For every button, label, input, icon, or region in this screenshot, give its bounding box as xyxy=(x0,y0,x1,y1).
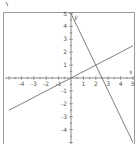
x-tick-label: 1 xyxy=(81,80,85,87)
x-tick-label: 2 xyxy=(94,80,98,87)
y-tick-label: -3 xyxy=(61,113,67,120)
x-tick-label: 5 xyxy=(131,80,135,87)
cropped-mark xyxy=(6,2,8,6)
y-tick-label: -4 xyxy=(61,126,67,133)
x-tick-label: -2 xyxy=(43,80,49,87)
y-tick-label: 5 xyxy=(63,10,67,17)
y-tick-label: -2 xyxy=(61,100,67,107)
y-tick-label: -1 xyxy=(61,87,67,94)
x-tick-label: 4 xyxy=(119,80,123,87)
y-tick-label: 4 xyxy=(63,22,67,29)
x-tick-label: -3 xyxy=(31,80,37,87)
coordinate-graph: -4-3-2-112345 54321-1-2-3-4 x y xyxy=(0,0,138,144)
x-axis-label: x xyxy=(129,68,133,76)
y-tick-label: 2 xyxy=(63,48,67,55)
y-tick-label: 3 xyxy=(63,35,67,42)
y-tick-label: 1 xyxy=(63,61,67,68)
x-tick-label: -4 xyxy=(18,80,24,87)
axes: -4-3-2-112345 54321-1-2-3-4 x y xyxy=(5,10,135,145)
x-tick-label: 3 xyxy=(106,80,110,87)
